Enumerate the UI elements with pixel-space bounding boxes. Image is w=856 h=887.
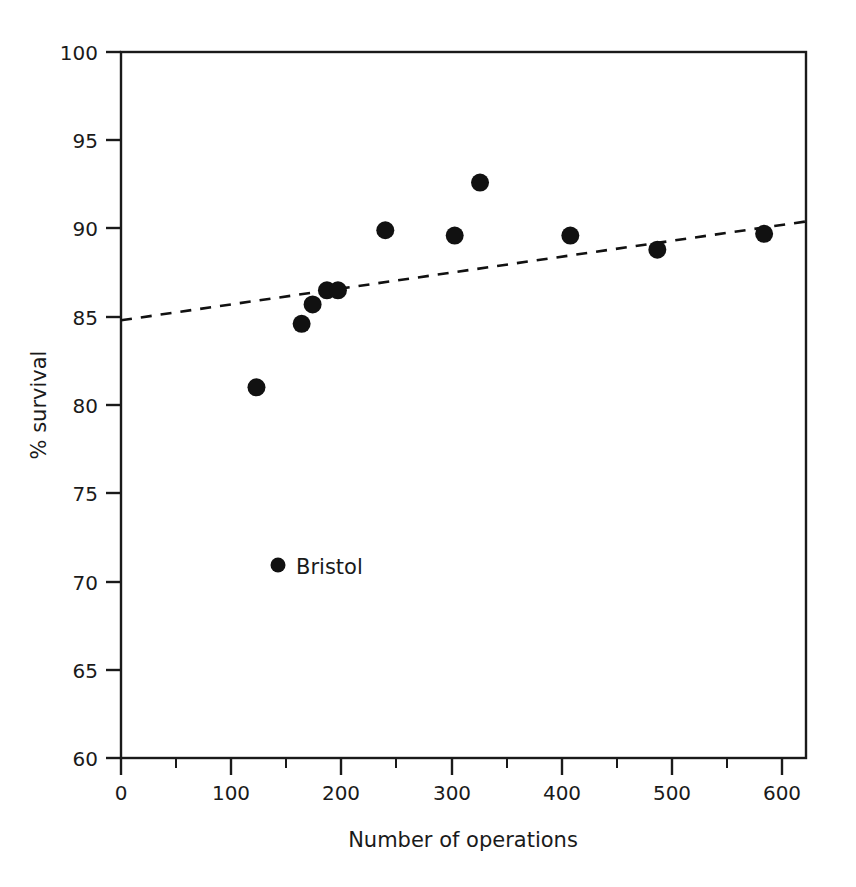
x-tick-label-600: 600: [763, 781, 801, 805]
data-point: [329, 281, 347, 299]
data-points-group: [247, 174, 773, 397]
bristol-legend: Bristol: [271, 555, 363, 579]
y-axis-ticks: [106, 52, 121, 758]
bristol-legend-marker-icon: [271, 558, 286, 573]
data-point: [247, 378, 265, 396]
x-axis-ticks: [121, 758, 782, 775]
plot-frame: [121, 52, 806, 758]
data-point: [471, 174, 489, 192]
y-tick-label-80: 80: [73, 394, 98, 418]
x-tick-label-400: 400: [543, 781, 581, 805]
y-tick-label-85: 85: [73, 306, 98, 330]
y-tick-label-100: 100: [60, 41, 98, 65]
x-tick-label-200: 200: [322, 781, 360, 805]
y-tick-label-90: 90: [73, 217, 98, 241]
data-point: [376, 221, 394, 239]
y-tick-label-75: 75: [73, 482, 98, 506]
data-point: [755, 225, 773, 243]
x-tick-label-100: 100: [212, 781, 250, 805]
y-axis-tick-labels: 100 95 90 85 80 75 70 65 60: [60, 41, 98, 771]
x-axis-title: Number of operations: [348, 828, 578, 852]
x-tick-label-500: 500: [653, 781, 691, 805]
x-tick-label-300: 300: [433, 781, 471, 805]
data-point: [304, 295, 322, 313]
y-axis-title: % survival: [27, 351, 51, 460]
y-tick-label-60: 60: [73, 747, 98, 771]
x-tick-label-0: 0: [115, 781, 128, 805]
y-tick-label-70: 70: [73, 571, 98, 595]
y-tick-label-65: 65: [73, 659, 98, 683]
x-axis-tick-labels: 0 100 200 300 400 500 600: [115, 781, 801, 805]
bristol-legend-label: Bristol: [296, 555, 363, 579]
data-point: [446, 227, 464, 245]
plot-border: [121, 52, 806, 758]
data-point: [648, 241, 666, 259]
data-point: [293, 315, 311, 333]
y-tick-label-95: 95: [73, 129, 98, 153]
data-point: [561, 227, 579, 245]
scatter-plot-figure: 100 95 90 85 80 75 70 65 60 0 100 200 30…: [0, 0, 856, 887]
